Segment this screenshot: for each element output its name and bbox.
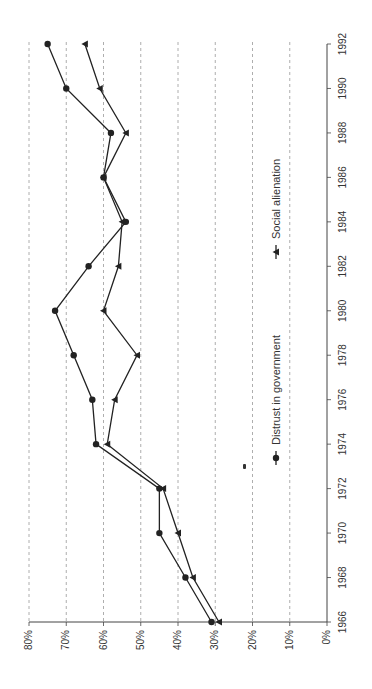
y-tick-label: 60% [98, 630, 109, 650]
x-tick-label: 1984 [337, 210, 348, 233]
triangle-marker [122, 129, 129, 136]
y-tick-label: 50% [135, 630, 146, 650]
y-tick-label: 30% [209, 630, 220, 650]
legend-label: Social alienation [270, 159, 282, 239]
x-tick-label: 1988 [337, 121, 348, 144]
circle-marker [89, 396, 95, 402]
x-tick-label: 1970 [337, 522, 348, 545]
legend-item: Social alienation [270, 159, 282, 259]
y-tick-label: 40% [172, 630, 183, 650]
circle-marker [108, 130, 114, 136]
triangle-marker [215, 619, 222, 626]
y-tick-label: 10% [284, 630, 295, 650]
circle-marker [273, 455, 279, 461]
x-tick-label: 1966 [337, 610, 348, 633]
scan-artifact [243, 464, 246, 469]
x-tick-label: 1992 [337, 32, 348, 55]
series-social-alienation [81, 41, 222, 626]
triangle-marker [104, 441, 111, 448]
legend-label: Distrust in government [270, 335, 282, 445]
data-series [44, 41, 222, 626]
circle-marker [63, 85, 69, 91]
legend-item: Distrust in government [270, 335, 282, 465]
circle-marker [93, 441, 99, 447]
legend: Distrust in governmentSocial alienation [243, 159, 282, 469]
x-tick-label: 1974 [337, 433, 348, 456]
y-tick-label: 0% [321, 630, 332, 645]
x-tick-label: 1982 [337, 255, 348, 278]
circle-marker [44, 41, 50, 47]
x-tick-label: 1978 [337, 344, 348, 367]
x-tick-label: 1972 [337, 477, 348, 500]
x-tick-label: 1968 [337, 566, 348, 589]
circle-marker [52, 308, 58, 314]
circle-marker [156, 530, 162, 536]
x-tick-label: 1980 [337, 299, 348, 322]
circle-marker [182, 574, 188, 580]
circle-marker [85, 263, 91, 269]
triangle-marker [81, 41, 88, 48]
circle-marker [208, 619, 214, 625]
x-tick-label: 1990 [337, 77, 348, 100]
y-tick-label: 70% [60, 630, 71, 650]
series-distrust-in-government [44, 41, 214, 625]
y-tick-label: 80% [23, 630, 34, 650]
y-tick-label: 20% [247, 630, 258, 650]
x-tick-label: 1976 [337, 388, 348, 411]
circle-marker [71, 352, 77, 358]
x-tick-label: 1986 [337, 166, 348, 189]
line-chart: 0%10%20%30%40%50%60%70%80%19661968197019… [0, 0, 372, 689]
